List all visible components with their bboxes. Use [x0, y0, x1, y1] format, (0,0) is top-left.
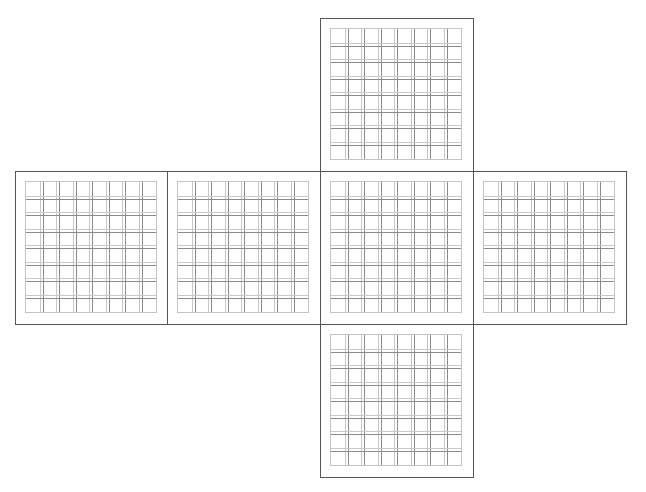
grid-line-dark [331, 418, 461, 419]
grid-line-light [208, 182, 209, 312]
grid-line-dark [348, 335, 349, 465]
grid-line-dark [331, 145, 461, 146]
grid-line-dark [178, 199, 308, 200]
grid-line-light [26, 295, 156, 296]
grid-line-dark [414, 335, 415, 465]
grid-line-light [427, 335, 428, 465]
grid-line-light [331, 196, 461, 197]
face-right [473, 171, 627, 325]
grid-line-dark [178, 281, 308, 282]
grid-left-center [177, 181, 309, 313]
grid-line-light [89, 182, 90, 312]
grid-line-light [484, 245, 614, 246]
grid-line-dark [331, 46, 461, 47]
grid-line-light [291, 182, 292, 312]
grid-line-dark [43, 182, 44, 312]
grid-line-dark [26, 248, 156, 249]
grid-line-dark [228, 182, 229, 312]
grid-line-dark [447, 29, 448, 159]
grid-line-light [331, 365, 461, 366]
grid-line-dark [364, 335, 365, 465]
grid-line-dark [178, 215, 308, 216]
grid-line-dark [484, 199, 614, 200]
grid-line-dark [397, 335, 398, 465]
grid-line-light [178, 196, 308, 197]
grid-line-light [345, 182, 346, 312]
grid-line-light [241, 182, 242, 312]
grid-line-light [345, 29, 346, 159]
grid-line-light [26, 196, 156, 197]
grid-line-light [394, 182, 395, 312]
grid-line-light [331, 212, 461, 213]
grid-line-light [331, 125, 461, 126]
grid-line-light [192, 182, 193, 312]
grid-line-dark [430, 335, 431, 465]
grid-line-light [331, 109, 461, 110]
grid-line-light [331, 262, 461, 263]
grid-line-light [225, 182, 226, 312]
grid-line-dark [381, 182, 382, 312]
grid-line-dark [331, 401, 461, 402]
grid-line-light [178, 295, 308, 296]
grid-line-light [26, 229, 156, 230]
grid-line-light [178, 229, 308, 230]
grid-line-light [378, 29, 379, 159]
grid-line-light [484, 262, 614, 263]
grid-line-dark [26, 215, 156, 216]
grid-right [483, 181, 615, 313]
grid-line-light [331, 229, 461, 230]
grid-line-light [484, 196, 614, 197]
grid-line-light [26, 262, 156, 263]
grid-line-dark [414, 182, 415, 312]
grid-line-dark [178, 265, 308, 266]
grid-line-dark [142, 182, 143, 312]
grid-line-dark [76, 182, 77, 312]
grid-line-dark [331, 352, 461, 353]
grid-line-light [73, 182, 74, 312]
grid-line-light [56, 182, 57, 312]
grid-line-dark [26, 265, 156, 266]
grid-line-dark [195, 182, 196, 312]
grid-line-dark [331, 112, 461, 113]
grid-line-dark [381, 29, 382, 159]
grid-line-light [331, 382, 461, 383]
grid-line-dark [331, 248, 461, 249]
grid-line-light [484, 278, 614, 279]
grid-line-light [484, 295, 614, 296]
grid-line-light [331, 448, 461, 449]
grid-line-light [531, 182, 532, 312]
grid-line-dark [484, 248, 614, 249]
grid-line-dark [178, 298, 308, 299]
grid-line-light [361, 335, 362, 465]
grid-line-light [331, 431, 461, 432]
grid-line-light [331, 92, 461, 93]
grid-line-dark [484, 298, 614, 299]
grid-line-light [331, 349, 461, 350]
grid-line-dark [331, 95, 461, 96]
grid-line-dark [550, 182, 551, 312]
grid-bottom [330, 334, 462, 466]
grid-line-dark [331, 79, 461, 80]
grid-line-dark [447, 335, 448, 465]
grid-line-dark [331, 434, 461, 435]
grid-line-light [331, 398, 461, 399]
grid-line-light [106, 182, 107, 312]
grid-line-light [378, 182, 379, 312]
grid-line-dark [26, 298, 156, 299]
grid-line-light [411, 182, 412, 312]
grid-line-light [274, 182, 275, 312]
grid-line-light [331, 295, 461, 296]
grid-line-dark [501, 182, 502, 312]
grid-line-dark [397, 29, 398, 159]
grid-line-light [331, 59, 461, 60]
grid-line-light [331, 142, 461, 143]
grid-line-dark [381, 335, 382, 465]
grid-line-dark [331, 62, 461, 63]
grid-line-light [178, 262, 308, 263]
grid-line-light [331, 43, 461, 44]
grid-line-dark [534, 182, 535, 312]
grid-line-light [444, 29, 445, 159]
grid-line-dark [125, 182, 126, 312]
grid-line-light [427, 29, 428, 159]
grid-line-dark [484, 265, 614, 266]
